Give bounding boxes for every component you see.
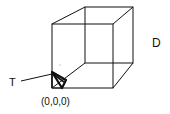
cube-edge <box>113 63 133 88</box>
cube-diagram <box>0 0 170 114</box>
t-pointer-line <box>21 74 52 81</box>
dot-mark <box>60 65 61 66</box>
label-d: D <box>152 37 161 49</box>
cube-edge <box>52 7 85 24</box>
cube-back-face <box>85 7 133 63</box>
label-t: T <box>9 77 16 88</box>
label-origin: (0,0,0) <box>41 97 70 107</box>
cube-edge <box>113 7 133 24</box>
tetrahedron-t <box>52 72 66 88</box>
